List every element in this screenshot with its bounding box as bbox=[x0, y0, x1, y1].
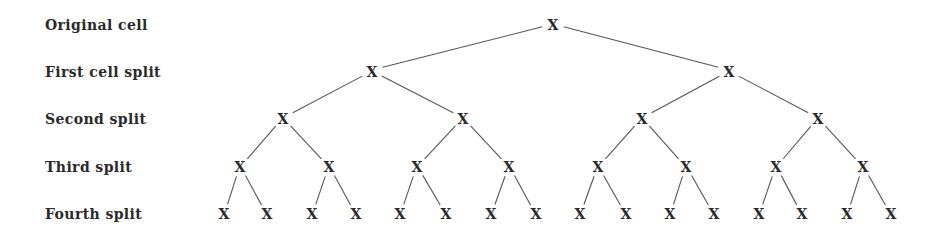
cell-node-x: X bbox=[412, 159, 423, 175]
cell-node-x: X bbox=[593, 159, 604, 175]
cell-node-x: X bbox=[278, 111, 289, 127]
tree-edge bbox=[763, 176, 773, 204]
tree-edge bbox=[383, 27, 543, 67]
tree-edge bbox=[382, 76, 453, 113]
cell-node-x: X bbox=[548, 17, 559, 33]
tree-edge bbox=[316, 176, 326, 204]
cell-node-x: X bbox=[637, 111, 648, 127]
cell-node-x: X bbox=[219, 206, 230, 222]
tree-edge bbox=[228, 176, 237, 204]
cell-node-x: X bbox=[709, 206, 720, 222]
tree-edge bbox=[247, 126, 275, 159]
tree-edge bbox=[425, 126, 456, 159]
tree-edge bbox=[564, 27, 719, 67]
tree-edge bbox=[495, 176, 505, 204]
tree-edge bbox=[826, 126, 856, 159]
cell-node-x: X bbox=[842, 206, 853, 222]
cell-node-x: X bbox=[886, 206, 897, 222]
tree-edge bbox=[869, 175, 886, 205]
cell-node-x: X bbox=[395, 206, 406, 222]
cell-node-x: X bbox=[486, 206, 497, 222]
cell-node-x: X bbox=[235, 159, 246, 175]
tree-edge bbox=[692, 175, 709, 205]
tree-edge bbox=[649, 126, 678, 159]
tree-edge bbox=[652, 76, 720, 112]
tree-edge bbox=[674, 176, 683, 204]
cell-division-tree: XXXXXXXXXXXXXXXXXXXXXXXXXXXXXXX bbox=[0, 0, 946, 236]
cell-node-x: X bbox=[797, 206, 808, 222]
tree-edge bbox=[245, 176, 261, 205]
tree-edge bbox=[423, 175, 440, 205]
tree-edge bbox=[404, 176, 414, 204]
cell-node-x: X bbox=[621, 206, 632, 222]
cell-node-x: X bbox=[665, 206, 676, 222]
cell-node-x: X bbox=[441, 206, 452, 222]
cell-node-x: X bbox=[367, 64, 378, 80]
tree-edge bbox=[783, 126, 811, 158]
cell-node-x: X bbox=[858, 159, 869, 175]
tree-edge bbox=[293, 76, 363, 113]
tree-edge bbox=[604, 175, 621, 205]
cell-node-x: X bbox=[458, 111, 469, 127]
cell-node-x: X bbox=[724, 64, 735, 80]
tree-edge bbox=[851, 176, 860, 204]
cell-node-x: X bbox=[351, 206, 362, 222]
tree-edge bbox=[514, 176, 530, 205]
tree-edge bbox=[334, 176, 350, 205]
cell-node-x: X bbox=[771, 159, 782, 175]
tree-edge bbox=[781, 176, 796, 205]
tree-edge bbox=[584, 176, 594, 204]
cell-node-x: X bbox=[307, 206, 318, 222]
cell-node-x: X bbox=[531, 206, 542, 222]
cell-node-x: X bbox=[681, 159, 692, 175]
tree-edge bbox=[291, 126, 322, 159]
tree-edge bbox=[605, 126, 634, 159]
tree-edge bbox=[471, 126, 502, 159]
cell-node-x: X bbox=[813, 111, 824, 127]
tree-edge bbox=[739, 76, 809, 113]
cell-node-x: X bbox=[504, 159, 515, 175]
cell-node-x: X bbox=[262, 206, 273, 222]
cell-node-x: X bbox=[754, 206, 765, 222]
cell-node-x: X bbox=[575, 206, 586, 222]
cell-node-x: X bbox=[324, 159, 335, 175]
